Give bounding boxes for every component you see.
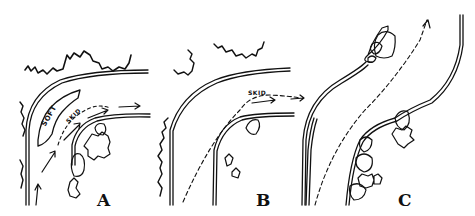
panel-label-c: C [398, 190, 412, 210]
panel-label-a: A [97, 190, 110, 210]
panel-c-drawing [302, 15, 463, 205]
panel-a-drawing [20, 51, 150, 205]
skid-annotation-b: SKID [248, 89, 266, 96]
diagram-canvas: SOFT SKID SKID A B C [0, 0, 475, 216]
trail-illustration [0, 0, 475, 216]
panel-label-b: B [256, 190, 270, 210]
panel-b-drawing [158, 42, 317, 205]
